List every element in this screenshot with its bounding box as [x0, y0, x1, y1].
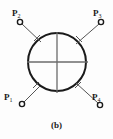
- node-marker-p1: [19, 101, 24, 106]
- lead-line-p1: [24, 86, 40, 102]
- node-label-p2: P2: [12, 9, 21, 19]
- figure-diagram: [0, 0, 113, 139]
- node-label-p2-subscript: 2: [18, 13, 21, 19]
- node-marker-p4: [97, 102, 102, 107]
- node-label-p3: P3: [93, 9, 102, 19]
- node-label-p2-text: P: [12, 8, 18, 18]
- figure-panel-b: P2 P3 P1 P4 (b): [0, 0, 113, 139]
- node-label-p1-text: P: [4, 92, 10, 102]
- node-label-p4-subscript: 4: [98, 97, 101, 103]
- node-label-p4: P4: [92, 93, 101, 103]
- node-label-p4-text: P: [92, 92, 98, 102]
- node-marker-p2: [17, 19, 22, 24]
- lead-line-p2: [22, 24, 41, 42]
- node-label-p1-subscript: 1: [10, 97, 13, 103]
- figure-caption: (b): [0, 120, 113, 130]
- node-label-p1: P1: [4, 93, 13, 103]
- node-label-p3-subscript: 3: [99, 13, 102, 19]
- node-label-p3-text: P: [93, 8, 99, 18]
- node-marker-p3: [98, 19, 103, 24]
- lead-line-p3: [76, 24, 99, 44]
